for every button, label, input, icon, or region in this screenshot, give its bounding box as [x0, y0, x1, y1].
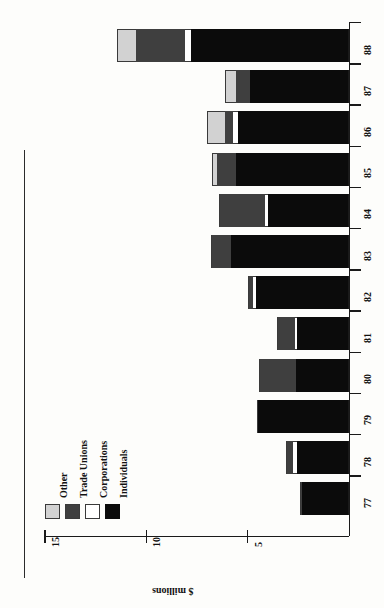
category-label-80: 80	[362, 374, 373, 384]
category-label-82: 82	[362, 292, 373, 302]
bar-87[interactable]	[225, 70, 349, 103]
category-label-79: 79	[362, 415, 373, 425]
bar-segment-87-individuals	[250, 70, 349, 103]
bar-segment-86-individuals	[238, 111, 349, 144]
category-label-84: 84	[362, 209, 373, 219]
value-tick-5	[247, 530, 248, 543]
value-tick-15	[44, 530, 45, 543]
bar-segment-84-trade-unions	[219, 194, 265, 227]
category-tick-82	[349, 269, 361, 270]
figure-container: FIGURE 5NDP Contributions 51015$ million…	[0, 0, 384, 608]
legend-label-individuals: Individuals	[118, 450, 129, 498]
bar-segment-83-individuals	[231, 235, 349, 268]
bar-segment-82-individuals	[256, 276, 349, 309]
bar-segment-79-individuals	[257, 400, 349, 433]
bar-segment-85-individuals	[236, 153, 349, 186]
category-tick-78	[349, 434, 361, 435]
bar-segment-84-individuals	[268, 194, 349, 227]
bar-segment-87-trade-unions	[236, 70, 250, 103]
category-label-86: 86	[362, 127, 373, 137]
category-label-87: 87	[362, 86, 373, 96]
bar-segment-86-other	[207, 111, 225, 144]
value-axis-title: $ millions	[152, 586, 193, 597]
bar-segment-78-trade-unions	[286, 441, 293, 474]
category-tick-79	[349, 393, 361, 394]
legend-label-other: Other	[58, 472, 69, 498]
bar-segment-85-trade-unions	[217, 153, 236, 186]
bar-segment-83-trade-unions	[211, 235, 231, 268]
bar-segment-81-trade-unions	[277, 317, 295, 350]
bar-segment-77-individuals	[302, 482, 349, 515]
bar-80[interactable]	[259, 359, 349, 392]
value-tick-label-5: 5	[253, 542, 264, 547]
value-tick-label-10: 10	[151, 537, 162, 547]
value-tick-label-15: 15	[50, 537, 61, 547]
bar-segment-78-individuals	[297, 441, 349, 474]
bar-79[interactable]	[257, 400, 349, 433]
bar-83[interactable]	[211, 235, 349, 268]
category-tick-80	[349, 352, 361, 353]
category-label-83: 83	[362, 251, 373, 261]
category-tick-81	[349, 310, 361, 311]
legend-swatch-other[interactable]	[45, 504, 60, 519]
bar-segment-88-individuals	[191, 29, 349, 62]
category-tick-86	[349, 104, 361, 105]
category-label-85: 85	[362, 168, 373, 178]
category-label-77: 77	[362, 498, 373, 508]
legend-label-trade-unions: Trade Unions	[78, 440, 89, 498]
bar-segment-88-trade-unions	[136, 29, 185, 62]
category-tick-83	[349, 228, 361, 229]
bar-82[interactable]	[248, 276, 349, 309]
legend-swatch-individuals[interactable]	[105, 504, 120, 519]
category-tick-88	[349, 22, 361, 23]
bar-78[interactable]	[286, 441, 349, 474]
bar-84[interactable]	[219, 194, 349, 227]
bar-81[interactable]	[277, 317, 349, 350]
category-label-78: 78	[362, 457, 373, 467]
bar-85[interactable]	[212, 153, 349, 186]
legend-swatch-trade-unions[interactable]	[65, 504, 80, 519]
legend-label-corporations: Corporations	[98, 441, 109, 498]
category-label-81: 81	[362, 333, 373, 343]
bar-segment-80-individuals	[296, 359, 349, 392]
value-tick-10	[146, 530, 147, 543]
value-axis-line	[45, 536, 349, 537]
category-tick-85	[349, 146, 361, 147]
bar-segment-81-individuals	[297, 317, 349, 350]
bar-77[interactable]	[300, 482, 349, 515]
bar-86[interactable]	[207, 111, 349, 144]
bar-88[interactable]	[117, 29, 349, 62]
category-label-88: 88	[362, 45, 373, 55]
category-axis-line	[349, 22, 350, 536]
legend-swatch-corporations[interactable]	[85, 504, 100, 519]
category-tick-87	[349, 63, 361, 64]
category-tick-84	[349, 187, 361, 188]
category-tick-77	[349, 475, 361, 476]
bar-segment-88-other	[117, 29, 136, 62]
bar-segment-80-trade-unions	[259, 359, 296, 392]
bar-segment-87-other	[225, 70, 236, 103]
bar-segment-86-trade-unions	[225, 111, 233, 144]
